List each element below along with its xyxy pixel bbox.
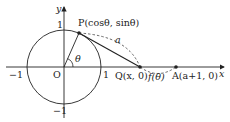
point-p bbox=[77, 31, 81, 35]
point-p-label: P(cosθ, sinθ) bbox=[78, 17, 139, 28]
y-axis-label: y bbox=[55, 3, 62, 14]
origin-label: O bbox=[53, 69, 61, 80]
angle-theta-label: θ bbox=[75, 53, 81, 64]
x-axis-label: x bbox=[219, 68, 225, 79]
angle-arc bbox=[68, 59, 74, 67]
arc-f-label: f(θ) bbox=[147, 71, 165, 82]
segment-pq bbox=[79, 33, 140, 67]
tick-x-pos: 1 bbox=[103, 69, 109, 80]
point-q-label: Q(x, 0) bbox=[115, 70, 148, 81]
tick-y-pos: 1 bbox=[57, 19, 63, 30]
tick-x-neg: −1 bbox=[9, 69, 23, 80]
unit-circle-diagram: y x O 1 −1 −1 1 P(cosθ, sinθ) Q(x, 0) A(… bbox=[0, 0, 230, 122]
point-q bbox=[138, 65, 142, 69]
point-a-label: A(a+1, 0) bbox=[171, 70, 218, 81]
tick-y-neg: −1 bbox=[53, 105, 67, 116]
arc-a-label: a bbox=[115, 34, 121, 45]
point-a bbox=[174, 65, 178, 69]
